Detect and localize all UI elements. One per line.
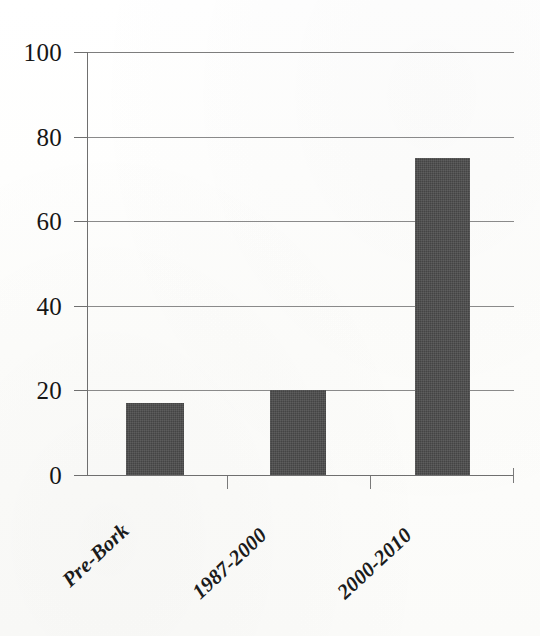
y-tick-mark-0: [74, 475, 88, 476]
y-tick-mark-40: [74, 306, 88, 307]
y-tick-label-20: 20: [0, 378, 62, 403]
y-tick-label-40: 40: [0, 294, 62, 319]
x-tick-label-1987-2000: 1987-2000: [189, 524, 271, 603]
bar-pre-bork: [126, 403, 184, 475]
x-tick-mark-1: [227, 476, 228, 489]
x-axis-line: [74, 475, 514, 476]
x-tick-mark-2: [370, 476, 371, 489]
y-tick-label-0: 0: [0, 463, 62, 488]
gridline-80: [87, 137, 514, 138]
y-tick-mark-100: [74, 52, 88, 53]
y-tick-label-60: 60: [0, 209, 62, 234]
x-tick-label-pre-bork: Pre-Bork: [59, 520, 133, 591]
y-tick-label-80: 80: [0, 125, 62, 150]
bar-2000-2010: [415, 158, 470, 475]
y-tick-mark-20: [74, 390, 88, 391]
gridline-100: [87, 52, 514, 53]
y-tick-label-100: 100: [0, 40, 62, 65]
y-tick-mark-80: [74, 137, 88, 138]
bar-chart: 100 80 60 40 20 0 Pre-Bork 1987-2000 200…: [0, 0, 540, 636]
bar-1987-2000: [270, 390, 326, 475]
plot-area: [87, 52, 514, 475]
x-axis-end-tick: [513, 468, 514, 483]
y-tick-mark-60: [74, 221, 88, 222]
y-axis-line: [87, 52, 88, 476]
x-tick-label-2000-2010: 2000-2010: [334, 524, 416, 603]
